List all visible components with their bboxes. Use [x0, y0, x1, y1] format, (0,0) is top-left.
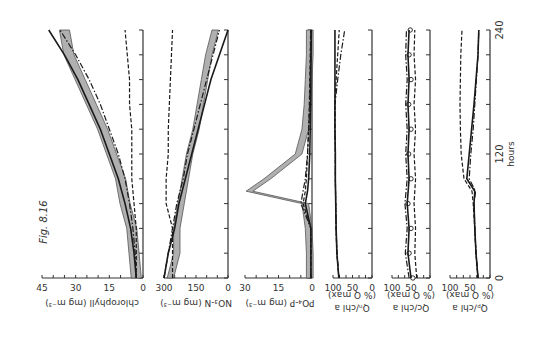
panel-po4-p: 30150: [239, 30, 315, 293]
axis-label-panel_4a: Qᴄ/chl a: [393, 303, 430, 313]
axis-label-panel_2: PO₄-P (mg m⁻³): [245, 298, 314, 308]
value-tick-label: 300: [155, 283, 172, 293]
axis-label-panel_5a: Qₚ/chl a: [452, 303, 488, 313]
axis-label-panel_0: chlorophyll (mg m⁻³): [45, 298, 139, 308]
value-tick-label: 45: [36, 283, 47, 293]
axis-label-panel_3b: (% Q max): [328, 290, 376, 300]
panel-chlorophyll: 4530150: [36, 30, 146, 293]
value-tick-label: 30: [70, 283, 82, 293]
panel-qn-chl-a: 100500: [324, 30, 375, 293]
value-tick-label: 15: [273, 283, 284, 293]
time-axis-title: hours: [506, 141, 516, 167]
value-tick-label: 30: [239, 283, 251, 293]
value-tick-label: 0: [225, 283, 231, 293]
axis-label-panel_4b: (% Q max): [387, 290, 435, 300]
axis-label-panel_5b: (% Q max): [446, 290, 494, 300]
series-dashed: [414, 30, 417, 278]
time-tick-label: 240: [494, 20, 505, 39]
panel-qc-chl-a: 100500: [383, 28, 433, 293]
observed-band: [167, 30, 218, 278]
panel-qp-chl-a: 100500: [441, 30, 493, 293]
figure-root: 4530150300150030150100500100500100500chl…: [0, 0, 547, 344]
value-tick-label: 150: [187, 283, 204, 293]
value-tick-label: 15: [104, 283, 115, 293]
axis-label-panel_1: NO₃-N (mg m⁻³): [160, 298, 232, 308]
axis-label-panel_3a: Qₙ/chl a: [334, 303, 369, 313]
value-tick-label: 0: [309, 283, 315, 293]
rotated-figure: 4530150300150030150100500100500100500: [36, 28, 493, 293]
time-tick-label: 120: [494, 144, 505, 163]
value-tick-label: 0: [140, 283, 146, 293]
figure-svg: 4530150300150030150100500100500100500chl…: [0, 0, 547, 344]
figure-caption: Fig. 8.16: [38, 200, 49, 244]
observed-band: [246, 30, 313, 278]
series-solid: [49, 30, 137, 278]
time-tick-label: 0: [494, 275, 505, 281]
series-dashdot: [469, 30, 479, 278]
panel-no3-n: 3001500: [155, 30, 231, 293]
